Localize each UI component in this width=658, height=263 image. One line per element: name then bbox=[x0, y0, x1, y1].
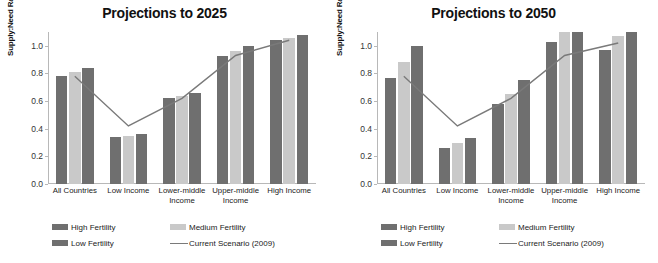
legend-2050: High FertilityMedium FertilityLow Fertil… bbox=[381, 219, 641, 251]
legend-color-icon bbox=[52, 224, 68, 230]
legend-label: Medium Fertility bbox=[518, 223, 574, 232]
y-axis-tick-label: 0.8 bbox=[346, 68, 372, 78]
y-axis-tick-label: 0.0 bbox=[17, 179, 43, 189]
legend-line-icon bbox=[499, 243, 517, 244]
chart-title-2025: Projections to 2025 bbox=[0, 5, 329, 21]
y-axis-tick-mark bbox=[45, 46, 48, 47]
x-axis-label: High Income bbox=[262, 186, 316, 196]
y-axis-tick-mark bbox=[374, 156, 377, 157]
y-axis-title-2025: Supply:Need Ratio bbox=[6, 0, 15, 56]
y-axis-tick-mark bbox=[45, 184, 48, 185]
x-axis-label: High Income bbox=[591, 186, 645, 196]
y-axis-tick-label: 0.6 bbox=[17, 96, 43, 106]
y-axis-tick-label: 0.2 bbox=[17, 151, 43, 161]
y-axis-tick-mark bbox=[45, 73, 48, 74]
y-axis-tick-mark bbox=[374, 101, 377, 102]
plot-area-2050: 0.00.20.40.60.81.0 bbox=[377, 32, 645, 184]
y-axis-tick-mark bbox=[374, 184, 377, 185]
legend-label: Low Fertility bbox=[400, 239, 443, 248]
legend-item[interactable]: Medium Fertility bbox=[170, 223, 312, 232]
y-axis-tick-mark bbox=[45, 101, 48, 102]
legend-color-icon bbox=[170, 224, 186, 230]
legend-item[interactable]: Current Scenario (2009) bbox=[499, 239, 641, 248]
legend-item[interactable]: Medium Fertility bbox=[499, 223, 641, 232]
plot-area-2025: 0.00.20.40.60.81.0 bbox=[48, 32, 316, 184]
chart-panel-2025: Projections to 2025 Supply:Need Ratio 0.… bbox=[0, 0, 329, 263]
current-scenario-polyline bbox=[404, 43, 618, 126]
legend-label: Medium Fertility bbox=[189, 223, 245, 232]
y-axis-tick-label: 0.8 bbox=[17, 68, 43, 78]
legend-label: High Fertility bbox=[71, 223, 115, 232]
chart-title-2050: Projections to 2050 bbox=[329, 5, 658, 21]
y-axis-title-2050: Supply:Need Ratio bbox=[335, 0, 344, 56]
x-axis-label: Lower-middle Income bbox=[155, 186, 209, 205]
current-scenario-line-2050 bbox=[377, 32, 645, 184]
y-axis-tick-label: 0.4 bbox=[17, 124, 43, 134]
x-axis-labels-2050: All CountriesLow IncomeLower-middle Inco… bbox=[377, 186, 645, 214]
legend-item[interactable]: High Fertility bbox=[381, 223, 499, 232]
legend-item[interactable]: High Fertility bbox=[52, 223, 170, 232]
y-axis-tick-label: 1.0 bbox=[346, 41, 372, 51]
x-axis-label: All Countries bbox=[377, 186, 431, 196]
legend-item[interactable]: Low Fertility bbox=[381, 239, 499, 248]
x-axis-label: Upper-middle Income bbox=[209, 186, 263, 205]
legend-color-icon bbox=[52, 240, 68, 246]
legend-color-icon bbox=[381, 224, 397, 230]
x-axis-label: Lower-middle Income bbox=[484, 186, 538, 205]
legend-color-icon bbox=[499, 224, 515, 230]
legend-2025: High FertilityMedium FertilityLow Fertil… bbox=[52, 219, 312, 251]
legend-label: High Fertility bbox=[400, 223, 444, 232]
y-axis-tick-label: 0.0 bbox=[346, 179, 372, 189]
current-scenario-polyline bbox=[75, 40, 289, 126]
y-axis-tick-label: 0.4 bbox=[346, 124, 372, 134]
y-axis-tick-label: 0.2 bbox=[346, 151, 372, 161]
y-axis-tick-mark bbox=[374, 73, 377, 74]
legend-item[interactable]: Low Fertility bbox=[52, 239, 170, 248]
x-axis-label: Upper-middle Income bbox=[538, 186, 592, 205]
y-axis-tick-label: 0.6 bbox=[346, 96, 372, 106]
y-axis-tick-mark bbox=[45, 156, 48, 157]
legend-color-icon bbox=[381, 240, 397, 246]
chart-panel-2050: Projections to 2050 Supply:Need Ratio 0.… bbox=[329, 0, 658, 263]
y-axis-tick-mark bbox=[45, 129, 48, 130]
x-axis-label: Low Income bbox=[431, 186, 485, 196]
legend-line-icon bbox=[170, 243, 188, 244]
x-axis-labels-2025: All CountriesLow IncomeLower-middle Inco… bbox=[48, 186, 316, 214]
legend-label: Current Scenario (2009) bbox=[189, 239, 275, 248]
y-axis-tick-label: 1.0 bbox=[17, 41, 43, 51]
y-axis-tick-mark bbox=[374, 129, 377, 130]
legend-label: Low Fertility bbox=[71, 239, 114, 248]
dual-bar-chart-figure: Projections to 2025 Supply:Need Ratio 0.… bbox=[0, 0, 658, 263]
current-scenario-line-2025 bbox=[48, 32, 316, 184]
y-axis-tick-mark bbox=[374, 46, 377, 47]
x-axis-label: All Countries bbox=[48, 186, 102, 196]
legend-item[interactable]: Current Scenario (2009) bbox=[170, 239, 312, 248]
x-axis-label: Low Income bbox=[102, 186, 156, 196]
legend-label: Current Scenario (2009) bbox=[518, 239, 604, 248]
